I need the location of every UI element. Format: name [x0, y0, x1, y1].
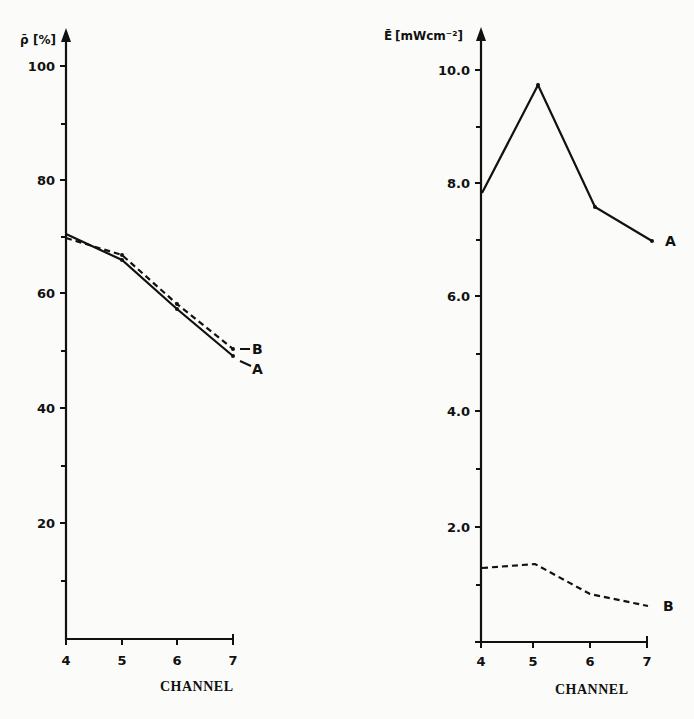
- right-xtick-7: 7: [642, 654, 651, 669]
- right-y-axis-symbol: Ē: [384, 29, 392, 43]
- left-y-axis-symbol: ρ̄: [20, 33, 29, 47]
- left-xtick-6: 6: [172, 653, 181, 668]
- left-series-a-leader: [240, 361, 251, 366]
- left-series-b-label: B: [252, 341, 263, 357]
- right-y-axis-unit: [mWcm⁻²]: [395, 29, 463, 43]
- left-ytick-20: 20: [37, 516, 55, 531]
- right-y-axis-title: Ē [mWcm⁻²]: [384, 29, 463, 43]
- left-series-b-line: [66, 238, 233, 349]
- right-series-b-label: B: [663, 598, 674, 614]
- right-xtick-4: 4: [476, 654, 485, 669]
- right-ytick-10: 10.0: [438, 63, 470, 78]
- right-ytick-8: 8.0: [447, 176, 470, 191]
- right-ytick-4: 4.0: [447, 404, 470, 419]
- left-series-a-line: [66, 234, 233, 356]
- right-ytick-6: 6.0: [447, 289, 470, 304]
- right-xtick-6: 6: [585, 654, 594, 669]
- right-series-a-line: [482, 85, 652, 241]
- left-xtick-5: 5: [117, 653, 126, 668]
- left-x-axis-label: CHANNEL: [160, 679, 234, 694]
- right-y-axis-arrow-icon: [476, 27, 486, 41]
- right-series-a-label: A: [665, 233, 676, 249]
- left-ytick-60: 60: [37, 286, 55, 301]
- right-series-a-points: [536, 83, 654, 243]
- left-chart: ρ̄ [%] 20 40 60 80 100: [20, 28, 263, 694]
- right-ytick-2: 2.0: [447, 520, 470, 535]
- left-y-axis-unit: [%]: [33, 33, 56, 47]
- left-x-tick-labels: 4 5 6 7: [61, 653, 237, 668]
- figure: ρ̄ [%] 20 40 60 80 100: [0, 0, 694, 719]
- left-y-axis-title: ρ̄ [%]: [20, 33, 56, 47]
- right-chart: Ē [mWcm⁻²] 2.0 4.0 6.0 8.0 10.0: [384, 27, 676, 697]
- left-ytick-100: 100: [28, 59, 55, 74]
- left-xtick-4: 4: [61, 653, 70, 668]
- right-x-tick-labels: 4 5 6 7: [476, 654, 651, 669]
- right-y-tick-labels: 2.0 4.0 6.0 8.0 10.0: [438, 63, 470, 535]
- left-y-axis-arrow-icon: [61, 28, 71, 42]
- right-xtick-5: 5: [528, 654, 537, 669]
- left-series-a-label: A: [252, 361, 263, 377]
- right-x-axis-label: CHANNEL: [555, 682, 629, 697]
- left-ytick-80: 80: [37, 173, 55, 188]
- right-series-b-line: [482, 564, 648, 606]
- left-xtick-7: 7: [228, 653, 237, 668]
- left-y-tick-labels: 20 40 60 80 100: [28, 59, 55, 531]
- left-ytick-40: 40: [37, 401, 55, 416]
